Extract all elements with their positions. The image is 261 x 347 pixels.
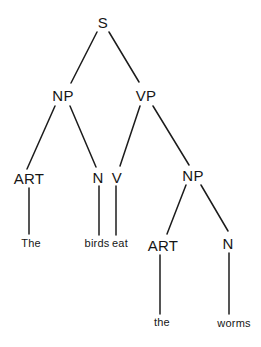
node-n-left: N bbox=[92, 169, 103, 186]
terminal-eat: eat bbox=[112, 237, 128, 249]
terminal-birds: birds bbox=[85, 237, 110, 249]
edge-np2-art2 bbox=[167, 185, 186, 234]
node-art-left: ART bbox=[14, 170, 45, 187]
edge-np-art bbox=[27, 106, 55, 169]
node-n-right: N bbox=[222, 235, 233, 252]
terminal-worms: worms bbox=[217, 317, 250, 329]
edge-vp-np2 bbox=[153, 106, 189, 165]
edge-np-n bbox=[70, 106, 96, 167]
edge-vp-v bbox=[120, 106, 140, 166]
node-v: V bbox=[112, 169, 122, 186]
syntax-tree-diagram: S NP VP ART N V NP ART N The birds eat t… bbox=[0, 0, 261, 347]
node-np-right: NP bbox=[182, 167, 203, 184]
edge-np2-n2 bbox=[201, 185, 228, 231]
edge-s-np bbox=[71, 32, 97, 83]
node-art-right: ART bbox=[148, 237, 179, 254]
node-np-left: NP bbox=[52, 87, 73, 104]
edge-s-vp bbox=[109, 32, 139, 82]
terminal-the-2: the bbox=[154, 316, 170, 328]
terminal-the-1: The bbox=[21, 237, 41, 249]
node-s: S bbox=[98, 14, 108, 31]
node-vp: VP bbox=[136, 87, 157, 104]
